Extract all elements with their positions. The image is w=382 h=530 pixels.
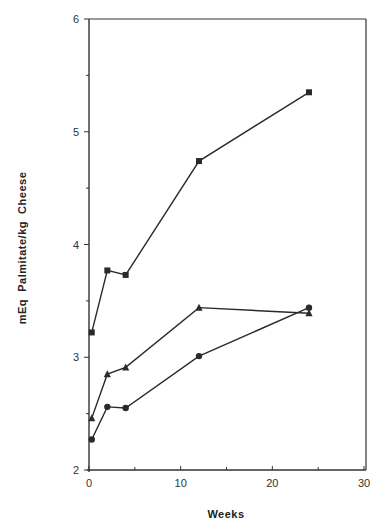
y-tick-label: 5	[73, 126, 79, 138]
square-marker	[306, 89, 312, 95]
y-tick-label: 3	[73, 351, 79, 363]
square-marker	[89, 329, 95, 335]
x-tick-label: 10	[175, 477, 187, 489]
x-tick-label: 30	[358, 477, 370, 489]
y-tick-label: 2	[73, 464, 79, 476]
x-axis-title: Weeks	[207, 508, 244, 520]
y-tick-label: 6	[73, 13, 79, 25]
series-line	[92, 92, 309, 332]
data-series	[88, 89, 312, 442]
x-tick-label: 0	[86, 477, 92, 489]
x-tick-label: 20	[266, 477, 278, 489]
series-circle	[89, 304, 313, 442]
y-tick-label: 4	[73, 239, 79, 251]
series-line	[92, 308, 309, 440]
square-marker	[104, 267, 110, 273]
line-chart: 234560102030 Weeks mEq Palmitate/kg Chee…	[0, 0, 382, 530]
series-square	[89, 89, 312, 335]
square-marker	[196, 158, 202, 164]
y-axis-title: mEq Palmitate/kg Cheese	[16, 172, 28, 325]
circle-marker	[104, 404, 110, 410]
square-marker	[123, 272, 129, 278]
axes: 234560102030	[73, 13, 370, 489]
circle-marker	[89, 436, 95, 442]
circle-marker	[306, 304, 312, 310]
circle-marker	[196, 353, 202, 359]
series-line	[92, 308, 309, 418]
circle-marker	[122, 405, 128, 411]
